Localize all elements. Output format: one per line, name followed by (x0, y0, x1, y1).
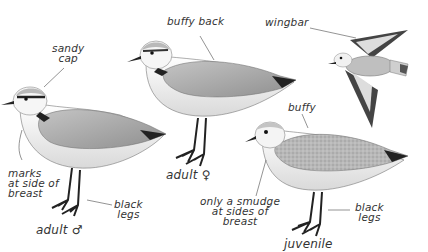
label-wingbar: wingbar (265, 17, 309, 27)
label-line: cap (52, 53, 84, 63)
bird-in-flight (310, 28, 408, 128)
label-sandy-cap: sandy cap (52, 43, 84, 63)
label-black-legs-male: black legs (114, 199, 143, 219)
label-black-legs-juvenile: black legs (355, 202, 384, 222)
label-smudge-breast: only a smudge at sides of breast (200, 196, 280, 226)
plover-plate: sandy cap buffy back wingbar buffy marks… (0, 0, 428, 252)
label-line: breast (8, 188, 59, 198)
label-adult-male: adult ♂ (36, 225, 83, 235)
label-line: breast (200, 216, 280, 226)
label-buffy-back: buffy back (167, 16, 224, 26)
label-buffy: buffy (288, 102, 316, 112)
label-marks-breast: marks at side of breast (8, 168, 59, 198)
label-adult-female: adult ♀ (166, 170, 211, 180)
label-juvenile: juvenile (284, 239, 333, 249)
label-line: legs (355, 212, 384, 222)
label-line: legs (114, 209, 143, 219)
